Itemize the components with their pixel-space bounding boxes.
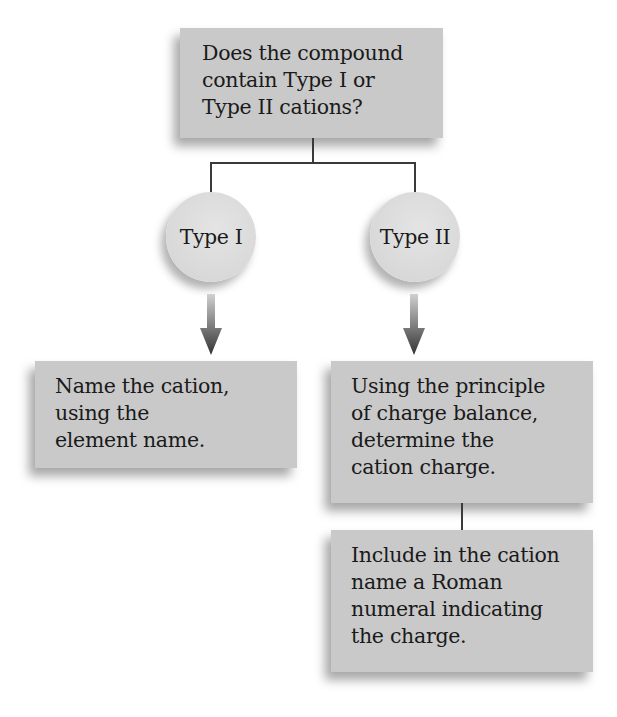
type-1-node: Type I (166, 192, 256, 282)
connector-question-stem (312, 138, 314, 163)
type-1-label: Type I (180, 225, 243, 249)
arrow-down-icon (199, 294, 223, 356)
question-line-1: Does the compound (202, 40, 429, 67)
step-line: element name. (55, 427, 283, 454)
type-2-step-2-box: Include in the cation name a Roman numer… (331, 530, 593, 672)
question-line-3: Type II cations? (202, 94, 429, 121)
step-line: cation charge. (351, 454, 579, 481)
step-line: using the (55, 400, 283, 427)
arrow-down-icon (402, 294, 426, 356)
type-2-step-1-box: Using the principle of charge balance, d… (331, 361, 593, 503)
question-line-2: contain Type I or (202, 67, 429, 94)
type-1-step-box: Name the cation, using the element name. (35, 361, 297, 468)
step-line: determine the (351, 427, 579, 454)
step-line: of charge balance, (351, 400, 579, 427)
type-2-node: Type II (370, 192, 460, 282)
connector-type-2-steps (461, 503, 463, 530)
type-2-label: Type II (380, 225, 450, 249)
step-line: name a Roman (351, 569, 579, 596)
step-line: the charge. (351, 623, 579, 650)
connector-type-2-drop (414, 162, 416, 192)
step-line: Name the cation, (55, 373, 283, 400)
step-line: numeral indicating (351, 596, 579, 623)
connector-branch-bar (210, 162, 416, 164)
step-line: Using the principle (351, 373, 579, 400)
step-line: Include in the cation (351, 542, 579, 569)
question-box: Does the compound contain Type I or Type… (180, 28, 443, 138)
connector-type-1-drop (210, 162, 212, 192)
